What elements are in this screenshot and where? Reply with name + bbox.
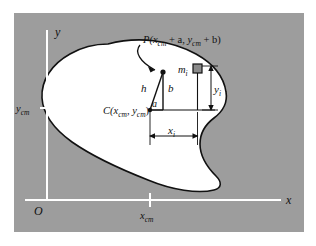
label-b: b bbox=[168, 82, 174, 94]
parallel-axis-theorem-diagram: y x O ycm xcm h a b P(xcm + a, ycm + b bbox=[0, 0, 316, 246]
label-h: h bbox=[141, 82, 147, 94]
mi-sub: i bbox=[186, 69, 188, 78]
figure-container: y x O ycm xcm h a b P(xcm + a, ycm + b bbox=[0, 0, 316, 246]
point-p-dot bbox=[160, 69, 165, 74]
origin-label: O bbox=[34, 204, 43, 218]
yi-sub: i bbox=[219, 89, 221, 98]
c-close: ) bbox=[146, 105, 150, 117]
x-axis-label: x bbox=[285, 193, 292, 207]
p-plus-b: + b) bbox=[201, 34, 221, 46]
y-axis-label: y bbox=[54, 25, 61, 39]
label-a: a bbox=[152, 98, 157, 109]
p-plus-a: + a, bbox=[166, 34, 187, 45]
mass-element-square bbox=[193, 64, 202, 73]
xi-sub: i bbox=[173, 130, 175, 139]
y-cm-sub: cm bbox=[21, 108, 30, 117]
x-cm-sub: cm bbox=[145, 215, 154, 224]
